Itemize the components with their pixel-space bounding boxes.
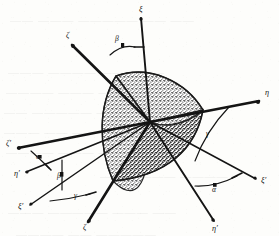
- axis-label-zeta-bottom: ζ: [83, 223, 87, 232]
- angle-label-beta-top: β: [114, 34, 119, 43]
- axis-label-eta-prime-lowleft: η′: [14, 169, 20, 178]
- ray-tip-eta-right: [256, 100, 260, 104]
- ray-tip-xi-prime-right: [253, 176, 256, 179]
- angle-tick-gamma-bottom: [86, 192, 96, 195]
- angle-arc-beta-top: [110, 46, 135, 55]
- angle-node-beta-top: [121, 43, 124, 47]
- axis-label-xi-top: ξ: [139, 5, 143, 14]
- angle-arc-gamma-bottom: [50, 194, 90, 201]
- ray-tip-eta-prime-lowleft: [25, 170, 28, 173]
- angle-label-gamma-bottom: γ: [74, 191, 78, 200]
- axis-label-xi-prime-right: ξ′: [261, 176, 267, 185]
- angle-label-beta-lower-left: β: [56, 171, 61, 180]
- ray-tip-xi-prime-lowleft: [29, 202, 32, 205]
- ray-tip-zeta-bottom: [87, 219, 91, 223]
- axis-label-zeta-upleft: ζ: [66, 31, 70, 40]
- axis-label-eta-prime-low: η′: [212, 224, 218, 233]
- scanned-figure-page: —— ——— ————— —— ————— ———— ——— —————— ——…: [0, 0, 279, 236]
- ray-tip-eta-prime-low: [211, 218, 214, 221]
- axis-label-zeta-prime-left: ζ′: [6, 139, 11, 148]
- ray-tip-zeta-upleft: [71, 44, 75, 48]
- axis-label-xi-prime-lowleft: ξ′: [18, 202, 24, 211]
- angle-tick-alpha-lower-right: [232, 173, 242, 178]
- angle-label-gamma-right: γ: [206, 129, 210, 138]
- ray-tip-xi-top: [139, 17, 142, 20]
- spherical-triangle-figure: ξ ζ η ζ′ η′ ξ′ ζ η′ ξ′ β α β γ γ α: [0, 0, 279, 236]
- angle-tick-alpha-left: [45, 164, 51, 170]
- ray-tip-zeta-prime-left: [17, 146, 21, 150]
- axis-label-eta-right: η: [265, 88, 269, 97]
